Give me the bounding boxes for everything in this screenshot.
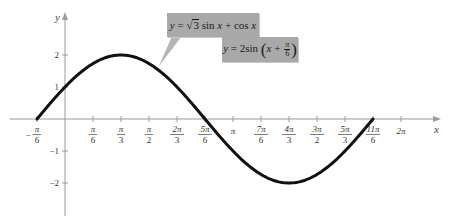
svg-text:3: 3: [343, 135, 348, 145]
x-axis-label: x: [433, 123, 439, 135]
svg-text:6: 6: [259, 135, 264, 145]
fraction-pi-over-6: π6: [284, 41, 290, 58]
svg-text:3: 3: [287, 135, 292, 145]
svg-text:7π: 7π: [256, 124, 266, 134]
svg-text:2π: 2π: [172, 124, 182, 134]
sqrt-symbol: √3: [186, 19, 199, 31]
svg-text:3: 3: [175, 135, 180, 145]
eq2-body: = 2sin: [228, 42, 261, 54]
eq1-cos: + cos: [222, 19, 251, 31]
x-tick-label: π3: [117, 124, 125, 145]
y-tick-label: −1: [49, 146, 59, 156]
x-tick-label: 5π3: [338, 124, 352, 145]
eq2-plus: +: [271, 42, 283, 54]
eq1-equals: =: [175, 19, 187, 31]
x-tick-label: 7π6: [254, 124, 268, 145]
x-tick-label: 2π: [396, 126, 406, 136]
svg-text:2: 2: [315, 135, 320, 145]
eq1-var-b: x: [251, 19, 256, 31]
x-tick-label: 3π2: [310, 124, 324, 145]
y-axis-arrow-icon: [62, 12, 68, 20]
svg-text:2π: 2π: [396, 126, 406, 136]
svg-text:3: 3: [119, 135, 124, 145]
frac-denominator: 6: [285, 50, 289, 58]
svg-text:π: π: [35, 124, 40, 134]
x-axis: [10, 116, 441, 122]
svg-text:5π: 5π: [340, 124, 350, 134]
y-tick-label: −2: [49, 178, 59, 188]
x-tick-label: π6−: [25, 124, 41, 145]
eq1-sin: sin: [199, 19, 217, 31]
svg-text:π: π: [231, 126, 236, 136]
x-tick-label: 2π3: [170, 124, 184, 145]
svg-text:3π: 3π: [311, 124, 322, 134]
svg-text:2: 2: [147, 135, 152, 145]
callout-original-equation: y = √3 sin x + cos x: [167, 13, 259, 37]
right-paren: ): [291, 40, 297, 59]
x-tick-label: 4π3: [282, 124, 296, 145]
svg-text:4π: 4π: [284, 124, 294, 134]
svg-text:6: 6: [371, 135, 376, 145]
callout-simplified-equation: y = 2sin (x + π6): [222, 37, 298, 62]
x-tick-label: π2: [145, 124, 153, 145]
svg-text:6: 6: [35, 135, 40, 145]
svg-text:π: π: [91, 124, 96, 134]
svg-text:6: 6: [91, 135, 96, 145]
y-axis-label: y: [54, 11, 60, 23]
x-tick-label: π: [231, 126, 236, 136]
svg-text:6: 6: [203, 135, 208, 145]
svg-text:−: −: [25, 130, 30, 140]
svg-text:π: π: [119, 124, 124, 134]
y-axis: [62, 12, 68, 216]
x-axis-arrow-icon: [433, 116, 441, 122]
x-tick-label: π6: [89, 124, 97, 145]
svg-text:π: π: [147, 124, 152, 134]
callout-pointer: [159, 36, 182, 66]
y-tick-label: 2: [55, 50, 60, 60]
y-tick-label: 1: [55, 82, 60, 92]
